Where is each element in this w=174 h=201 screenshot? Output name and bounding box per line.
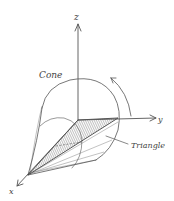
triangle-pointer [106, 136, 128, 144]
x-axis [17, 120, 78, 186]
z-axis [75, 24, 81, 120]
rotation-arrow-icon [111, 78, 131, 116]
z-axis-label: z [73, 12, 79, 22]
x-axis-label: x [9, 187, 14, 196]
cone-diagram: z y x Cone Triangle [0, 0, 174, 201]
y-axis-label: y [157, 115, 163, 124]
triangle-label: Triangle [131, 141, 165, 150]
cone-label: Cone [39, 70, 62, 80]
triangle [28, 118, 118, 175]
